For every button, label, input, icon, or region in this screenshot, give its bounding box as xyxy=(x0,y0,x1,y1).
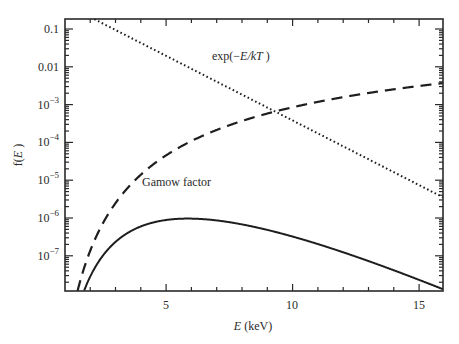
x-tick-label-10: 10 xyxy=(286,298,298,312)
x-tick-label-5: 5 xyxy=(163,298,169,312)
y-tick-label: 10−6 xyxy=(37,208,59,225)
x-axis-label: E (keV) xyxy=(233,319,272,333)
annotation-gamow-factor: Gamow factor xyxy=(142,175,211,189)
annotation-boltzmann: exp(−E/kT ) xyxy=(212,49,270,63)
series-dotted-line xyxy=(94,19,443,197)
y-axis-label: f(E ) xyxy=(11,144,25,166)
y-tick-label: 10−4 xyxy=(37,132,59,149)
y-tick-label: 0.01 xyxy=(38,60,59,74)
series-dashed-line xyxy=(78,83,443,291)
gamow-peak-chart: 0.10.0110−310−410−510−610−7 5 10 15 E (k… xyxy=(0,0,459,344)
series-solid-line xyxy=(84,219,443,291)
y-tick-label: 10−3 xyxy=(37,95,59,112)
y-tick-label: 10−5 xyxy=(37,170,59,187)
x-tick-label-15: 15 xyxy=(413,298,425,312)
y-tick-label: 0.1 xyxy=(44,22,59,36)
y-tick-labels: 0.10.0110−310−410−510−610−7 xyxy=(37,22,59,263)
y-tick-label: 10−7 xyxy=(37,246,59,263)
